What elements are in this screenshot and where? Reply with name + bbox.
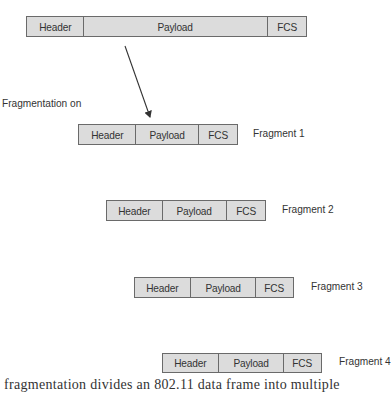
payload-label: Payload (177, 201, 212, 220)
fragment-payload: Payload (163, 201, 227, 220)
payload-label: Payload (205, 278, 240, 297)
fcs-label: FCS (236, 201, 256, 220)
payload-label: Payload (149, 125, 184, 144)
header-label: Header (91, 125, 123, 144)
original-frame-payload: Payload (84, 17, 268, 36)
fragment-payload: Payload (219, 354, 284, 372)
fragment-fcs: FCS (199, 125, 237, 144)
header-label: Header (174, 354, 206, 372)
fragment-payload: Payload (136, 125, 199, 144)
fragment-header: Header (79, 125, 136, 144)
fragment-4-label: Fragment 4 (339, 355, 391, 367)
fragment-header: Header (107, 201, 163, 220)
fragment-3-frame: Header Payload FCS (134, 277, 294, 298)
original-frame-header: Header (27, 17, 84, 36)
fcs-label: FCS (208, 125, 228, 144)
payload-label: Payload (233, 354, 268, 372)
fragment-2-label: Fragment 2 (282, 203, 334, 215)
header-label: Header (118, 201, 150, 220)
fragment-fcs: FCS (256, 278, 293, 297)
fragment-1-label: Fragment 1 (253, 127, 305, 139)
original-frame-fcs: FCS (268, 17, 306, 36)
fragment-1-frame: Header Payload FCS (78, 124, 238, 145)
fcs-label: FCS (265, 278, 285, 297)
fragment-4-frame: Header Payload FCS (162, 353, 322, 373)
payload-label: Payload (158, 17, 193, 36)
fcs-label: FCS (277, 17, 297, 36)
fcs-label: FCS (293, 354, 313, 372)
fragment-2-frame: Header Payload FCS (106, 200, 266, 221)
fragment-fcs: FCS (227, 201, 265, 220)
fragment-payload: Payload (191, 278, 256, 297)
fragment-3-label: Fragment 3 (311, 280, 363, 292)
cropped-caption: fragmentation divides an 802.11 data fra… (4, 377, 340, 393)
fragment-header: Header (135, 278, 191, 297)
fragment-header: Header (163, 354, 219, 372)
header-label: Header (146, 278, 178, 297)
original-frame: Header Payload FCS (26, 16, 307, 37)
header-label: Header (39, 17, 71, 36)
fragment-fcs: FCS (284, 354, 321, 372)
fragmentation-annotation: Fragmentation on (2, 97, 81, 109)
